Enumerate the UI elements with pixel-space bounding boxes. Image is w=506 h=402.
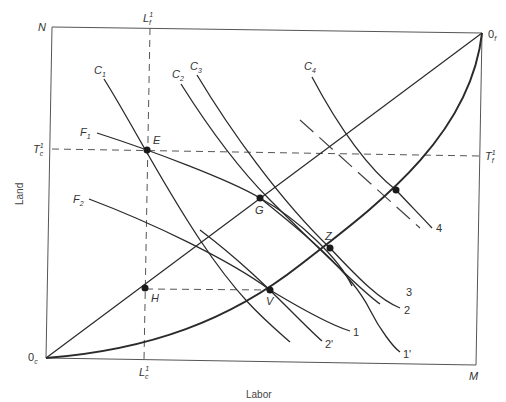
point-h bbox=[142, 285, 149, 292]
end-label-4: 4 bbox=[436, 222, 442, 234]
lf1-label: L1f bbox=[143, 11, 153, 26]
end-label-2: 2 bbox=[404, 304, 410, 316]
point-g bbox=[257, 195, 264, 202]
tf1-label: T1f bbox=[485, 149, 496, 164]
point-c4-tangency bbox=[393, 187, 400, 194]
c1-label: C1 bbox=[94, 64, 106, 78]
labor-reference-line bbox=[144, 28, 150, 360]
x-axis-title: Labor bbox=[246, 389, 272, 400]
point-z bbox=[327, 245, 334, 252]
end-label-1: 1 bbox=[353, 326, 359, 338]
point-z-label: Z bbox=[324, 230, 333, 242]
isoquant-2-prime bbox=[200, 230, 322, 341]
corner-0f-label: 0f bbox=[488, 28, 497, 42]
isoquant-c3 bbox=[197, 75, 400, 308]
point-e bbox=[144, 147, 151, 154]
c3-label: C3 bbox=[190, 60, 202, 74]
isoquant-1-prime bbox=[260, 198, 400, 352]
c2-label: C2 bbox=[172, 68, 184, 82]
point-g-label: G bbox=[255, 204, 264, 216]
lc1-label: L1c bbox=[139, 365, 149, 380]
f2-label: F2 bbox=[73, 193, 84, 207]
point-v bbox=[267, 287, 274, 294]
corner-0c-label: 0c bbox=[28, 351, 38, 365]
edgeworth-box-diagram: N 0f 0c M L1f L1c T1c T1f C1 C2 C3 C4 F1… bbox=[0, 0, 506, 402]
corner-m-label: M bbox=[469, 370, 479, 382]
diagonal-line bbox=[46, 33, 482, 358]
isoquant-f1 bbox=[97, 133, 352, 286]
end-label-2-prime: 2' bbox=[325, 338, 333, 350]
point-h-label: H bbox=[151, 292, 159, 304]
point-e-label: E bbox=[153, 134, 161, 146]
f1-label: F1 bbox=[80, 126, 91, 140]
y-axis-title: Land bbox=[14, 183, 25, 205]
land-reference-line bbox=[52, 149, 480, 156]
tc1-label: T1c bbox=[33, 142, 44, 157]
isoquant-f2 bbox=[89, 199, 350, 331]
c4-label: C4 bbox=[304, 60, 316, 74]
end-label-1-prime: 1' bbox=[403, 348, 411, 360]
corner-n-label: N bbox=[38, 21, 46, 33]
h-to-v-dashed-line bbox=[146, 289, 270, 290]
point-v-label: V bbox=[266, 295, 275, 307]
end-label-3: 3 bbox=[406, 286, 412, 298]
tangent-dashed-line bbox=[300, 120, 420, 228]
isoquant-c4 bbox=[312, 77, 432, 228]
